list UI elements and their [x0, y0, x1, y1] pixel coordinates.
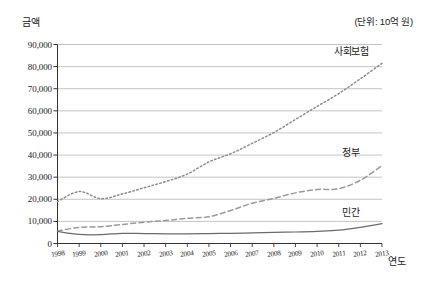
series-line	[58, 63, 383, 201]
series-line	[58, 224, 383, 235]
line-chart: (단위: 10억 원) 금액 연도 90,00080,00070,00060,0…	[0, 0, 421, 281]
plot-area	[0, 0, 421, 281]
series-label-1: 사회보험	[334, 43, 369, 58]
series-label-2: 정부	[342, 144, 359, 159]
series-label-3: 민간	[342, 204, 359, 219]
